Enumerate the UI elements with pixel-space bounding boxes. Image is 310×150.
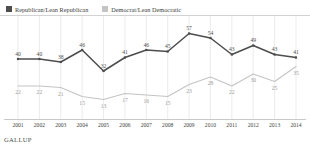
gridlines — [18, 16, 296, 119]
x-axis: 2001200220032004200520062007200820092010… — [0, 119, 310, 133]
data-point-marker — [81, 49, 83, 51]
legend-item-democrat: Democrat/Lean Democratic — [102, 6, 181, 13]
series-layer — [17, 32, 297, 99]
data-point-marker — [252, 44, 254, 46]
data-point-marker — [60, 61, 62, 63]
legend-item-republican: Republican/Lean Republican — [6, 6, 88, 13]
plot-svg — [0, 16, 310, 119]
data-point-marker — [17, 58, 19, 60]
legend-swatch-republican — [6, 6, 12, 12]
data-point-marker — [145, 49, 147, 51]
legend-label-republican: Republican/Lean Republican — [15, 6, 88, 13]
legend-label-democrat: Democrat/Lean Democratic — [111, 6, 181, 13]
x-tick-label: 2008 — [162, 122, 173, 129]
x-tick-label: 2002 — [34, 122, 45, 129]
data-point-marker — [231, 53, 233, 55]
data-point-marker — [38, 58, 40, 60]
series-line-democrat — [18, 67, 296, 100]
x-tick-label: 2009 — [183, 122, 194, 129]
gallup-logo: GALLUP — [4, 136, 32, 143]
x-tick-label: 2012 — [248, 122, 259, 129]
x-tick-label: 2007 — [141, 122, 152, 129]
data-point-marker — [188, 32, 190, 34]
data-point-marker — [167, 50, 169, 52]
x-tick-label: 2005 — [98, 122, 109, 129]
x-tick-label: 2001 — [12, 122, 23, 129]
series-line-republican — [18, 34, 296, 72]
x-tick-label: 2003 — [55, 122, 66, 129]
x-tick-label: 2006 — [119, 122, 130, 129]
x-tick-label: 2011 — [226, 122, 237, 129]
data-point-marker — [209, 37, 211, 39]
legend-swatch-democrat — [102, 6, 108, 12]
x-tick-label: 2013 — [269, 122, 280, 129]
plot-area — [0, 16, 310, 119]
gallup-line-chart: Republican/Lean Republican Democrat/Lean… — [0, 0, 310, 150]
x-tick-label: 2014 — [290, 122, 301, 129]
data-point-marker — [274, 53, 276, 55]
x-tick-label: 2010 — [205, 122, 216, 129]
data-point-marker — [124, 56, 126, 58]
data-point-marker — [102, 70, 104, 72]
x-tick-label: 2004 — [77, 122, 88, 129]
data-point-marker — [295, 56, 297, 58]
x-axis-line — [4, 119, 306, 120]
chart-legend: Republican/Lean Republican Democrat/Lean… — [6, 3, 181, 15]
